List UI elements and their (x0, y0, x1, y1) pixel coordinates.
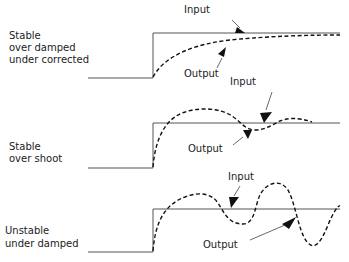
panel-overshoot: Stable over shoot Input Output (9, 76, 340, 168)
panel-label-line: over shoot (9, 153, 62, 164)
panel-label-line: under corrected (9, 54, 89, 65)
output-pointer-line (233, 137, 243, 145)
step-response-diagram: Stable over damped under corrected Input… (0, 0, 349, 262)
input-pointer-line (234, 186, 240, 196)
output-pointer-line (250, 225, 285, 240)
panel-label-line: Stable (9, 30, 41, 41)
output-label: Output (188, 143, 223, 154)
input-label: Input (230, 76, 256, 87)
output-arrow-icon (218, 47, 226, 57)
input-label: Input (184, 4, 210, 15)
panel-label-line: Unstable (5, 225, 49, 236)
input-arrow-icon (229, 197, 239, 208)
input-label: Input (228, 171, 254, 182)
output-response-curve (153, 109, 312, 167)
panel-underdamped: Unstable under damped Input Output (5, 171, 340, 252)
panel-overdamped: Stable over damped under corrected Input… (9, 4, 340, 79)
panel-label-line: under damped (5, 238, 79, 249)
output-label: Output (184, 68, 219, 79)
input-pointer-line (232, 20, 240, 28)
output-response-curve (153, 183, 340, 251)
output-label: Output (203, 239, 238, 250)
input-pointer-line (266, 92, 272, 110)
panel-label-line: Stable (9, 141, 41, 152)
panel-label-line: over damped (9, 42, 76, 53)
output-arrow-icon (243, 130, 252, 139)
output-pointer-line (217, 58, 222, 68)
output-arrow-icon (282, 217, 296, 229)
input-arrow-icon (260, 112, 272, 123)
output-response-curve (153, 35, 340, 77)
